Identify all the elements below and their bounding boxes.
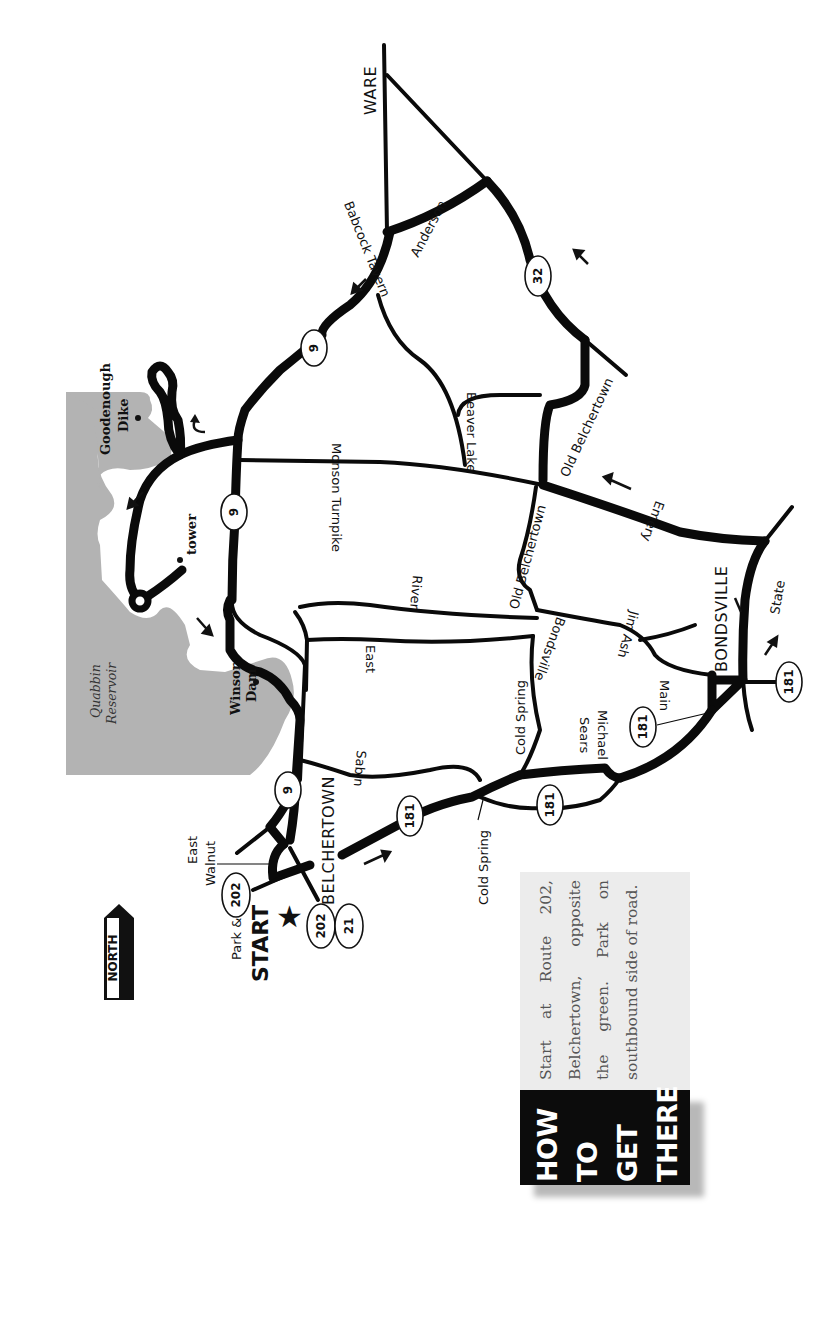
tower-spur-road <box>148 570 182 596</box>
how-to-get-there-heading-box: HOW TO GET THERE <box>520 1090 690 1185</box>
svg-text:9: 9 <box>281 786 295 794</box>
svg-text:202: 202 <box>314 913 328 938</box>
route-21-shield: 21 <box>335 904 363 948</box>
east-connector-road <box>295 612 307 690</box>
route-9-shield-center: 9 <box>221 494 247 530</box>
directions-text: Start at Route 202, Belchertown, opposit… <box>532 880 646 1080</box>
svg-text:181: 181 <box>782 669 796 694</box>
heading-line-4: THERE <box>648 1086 688 1182</box>
east-road <box>307 636 533 642</box>
goodenough-label-line1: Goodenough <box>98 363 113 455</box>
sabin-road-label: Sabin <box>351 750 369 787</box>
route-32-east-spur <box>585 340 626 375</box>
route-9-shield-north: 9 <box>301 330 327 366</box>
svg-text:9: 9 <box>307 344 321 352</box>
state-road <box>743 541 765 680</box>
anderson-road-label: Anderson <box>407 198 449 260</box>
svg-text:181: 181 <box>636 714 650 739</box>
route-202-shield-a: 202 <box>222 873 250 917</box>
main-road-label: Main <box>657 680 672 711</box>
ware-label: WARE <box>361 66 380 115</box>
route-map: 9 9 9 32 181 181 181 181 202 202 21 ★ WA… <box>0 0 836 1341</box>
svg-text:202: 202 <box>229 882 243 907</box>
curved-arrow-head-icon <box>190 414 200 423</box>
ware-diagonal-road <box>387 75 487 181</box>
winsor-label-line1: Winsor <box>228 663 243 716</box>
route-181-shield-c: 181 <box>630 707 656 747</box>
belchertown-west-spur <box>237 827 270 853</box>
monson-turnpike-label: Monson Turnpike <box>329 443 344 552</box>
svg-text:21: 21 <box>342 918 356 935</box>
cold-spring-place-label: Cold Spring <box>476 830 491 905</box>
michael-sears-label-line1: Michael <box>595 710 610 760</box>
cold-spring-leader <box>478 800 483 820</box>
route-181-shield-d: 181 <box>776 662 802 702</box>
michael-sears-road <box>520 768 620 778</box>
michael-sears-label-line2: Sears <box>577 717 592 754</box>
babcock-tavern-road <box>378 295 465 465</box>
route-181-shield-a: 181 <box>397 796 423 836</box>
ware-road-north <box>384 45 387 232</box>
route-9-road <box>232 232 390 600</box>
start-star-icon: ★ <box>276 900 303 933</box>
svg-text:32: 32 <box>531 268 545 285</box>
park-and-label: Park & <box>229 918 244 960</box>
goodenough-dot-icon <box>135 415 141 421</box>
east-walnut-label-line2: Walnut <box>203 841 218 886</box>
svg-text:181: 181 <box>543 792 557 817</box>
start-label: START <box>248 905 273 982</box>
svg-text:9: 9 <box>227 508 241 516</box>
goodenough-label-line2: Dike <box>116 399 131 433</box>
heading-line-3: GET <box>608 1086 648 1182</box>
east-walnut-label-line1: East <box>185 836 200 864</box>
monson-turnpike-road <box>240 460 543 485</box>
heading-line-1: HOW <box>528 1086 568 1182</box>
reservoir-label-line1: Quabbin <box>88 664 103 718</box>
heading-line-2: TO <box>568 1086 608 1182</box>
north-label: NORTH <box>106 934 120 981</box>
how-to-get-there-panel: Start at Route 202, Belchertown, opposit… <box>520 872 690 1232</box>
east-road-label: East <box>363 645 378 673</box>
tower-dot-icon <box>177 557 183 563</box>
beaver-lake-road-label: Beaver Lake <box>464 392 479 472</box>
river-road-label: River <box>407 575 425 611</box>
bondsville-label: BONDSVILLE <box>712 566 731 672</box>
state-road-label: State <box>767 579 788 616</box>
state-road-south <box>743 680 752 730</box>
cold-spring-road-label: Cold Spring <box>513 680 528 755</box>
winsor-label-line2: Dam <box>244 668 259 702</box>
route-9-shield-south: 9 <box>275 772 301 808</box>
north-arrow: NORTH <box>104 904 134 1000</box>
route-181-road <box>342 775 520 855</box>
old-belchertown-west-label: Old Belchertown <box>506 503 548 611</box>
route-181-shield-b: 181 <box>537 785 563 825</box>
main-road <box>712 675 743 710</box>
route-202-shield-b: 202 <box>307 904 335 948</box>
route-32-shield: 32 <box>525 256 551 296</box>
bondsville-road-label: Bondsville <box>531 615 568 683</box>
directions-box: Start at Route 202, Belchertown, opposit… <box>520 872 690 1090</box>
state-road-north <box>765 507 792 541</box>
jim-ash-road <box>640 625 695 640</box>
reservoir-label-line2: Reservoir <box>104 662 119 725</box>
svg-text:181: 181 <box>403 803 417 828</box>
tower-label: tower <box>184 514 199 555</box>
how-to-get-there-heading: HOW TO GET THERE <box>528 1086 688 1182</box>
belchertown-label: BELCHERTOWN <box>319 776 338 905</box>
